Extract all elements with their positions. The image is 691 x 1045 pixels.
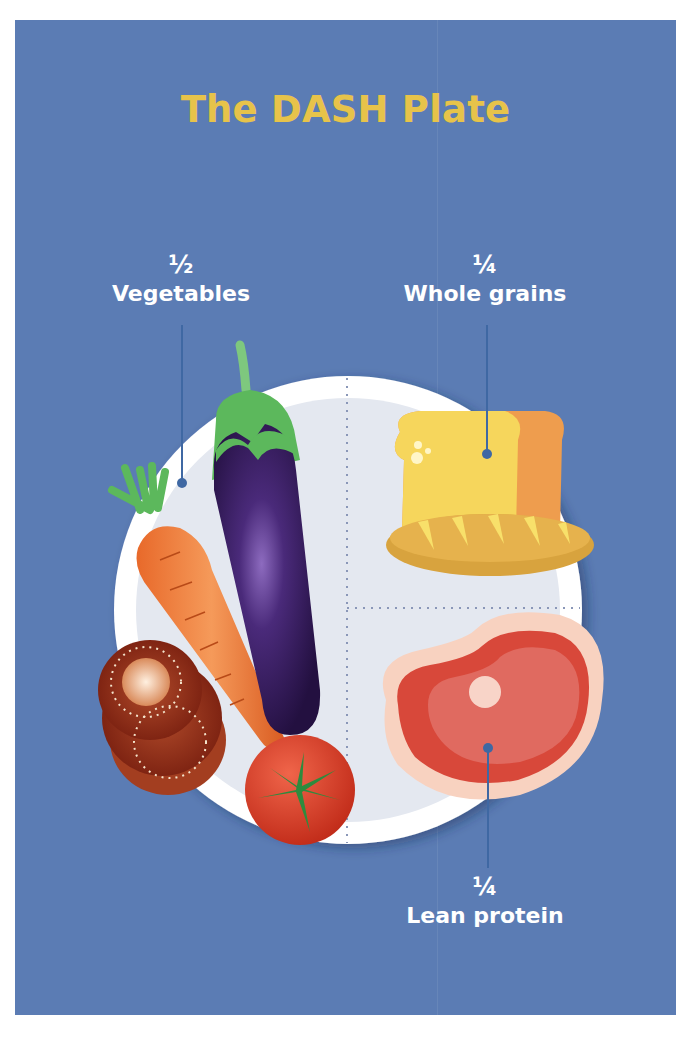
tomato-icon bbox=[245, 735, 355, 845]
bread-icon bbox=[395, 411, 564, 532]
baguette-icon bbox=[386, 514, 594, 576]
plate-illustration bbox=[0, 0, 691, 1045]
